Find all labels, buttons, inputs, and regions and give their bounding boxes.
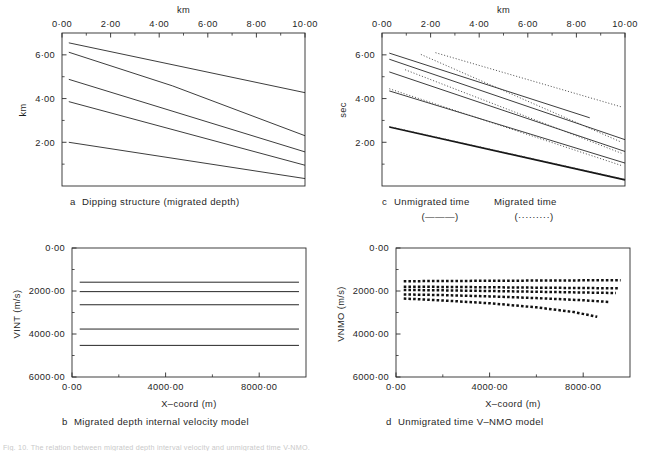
x-tick-label: 0·00 — [62, 382, 82, 392]
panel-caption-text: Migrated depth internal velocity model — [74, 416, 249, 427]
x-tick-label: 4000·00 — [471, 382, 507, 392]
y-tick-label: 6000·00 — [29, 372, 65, 382]
y-tick-label: 4000·00 — [29, 329, 65, 339]
data-series-unmigrated-5 — [389, 53, 589, 118]
data-series-horizon-2 — [69, 102, 305, 166]
y-tick-label: 2000·00 — [29, 286, 65, 296]
panel-caption-letter: c — [382, 196, 387, 207]
data-series-horizon-5 — [69, 43, 305, 93]
plot-frame — [396, 248, 630, 377]
data-series-vnmo-2 — [404, 294, 609, 302]
data-series-unmigrated-2 — [389, 91, 625, 163]
x-tick-label: 4·00 — [149, 19, 169, 29]
data-series-migrated-4 — [421, 54, 620, 141]
panel-c-plot: 0·002·004·006·008·0010·002·004·006·00kms… — [324, 0, 649, 222]
panel-b-plot: 0·004000·008000·000·002000·004000·006000… — [0, 222, 325, 437]
x-tick-label: 6·00 — [518, 19, 538, 29]
data-series-unmigrated-3 — [389, 72, 625, 152]
panel-caption-text: Unmigrated time V–NMO model — [398, 416, 543, 427]
panel-b-interval-velocity: 0·004000·008000·000·002000·004000·006000… — [0, 222, 325, 437]
panel-d-plot: 0·004000·008000·000·002000·004000·006000… — [324, 222, 649, 437]
panel-caption-letter: b — [62, 416, 68, 427]
x-tick-label: 0·00 — [386, 382, 406, 392]
y-tick-label: 6·00 — [35, 50, 55, 60]
y-tick-label: 6000·00 — [353, 372, 389, 382]
y-tick-label: 6·00 — [355, 50, 375, 60]
data-series-migrated-3 — [405, 70, 621, 153]
data-series-migrated-5 — [435, 53, 621, 107]
x-tick-label: 10·00 — [612, 19, 637, 29]
x-tick-label: 4·00 — [469, 19, 489, 29]
panel-caption-text-2: Migrated time — [494, 196, 557, 207]
x-tick-label: 10·00 — [292, 19, 317, 29]
panel-caption-letter: a — [70, 196, 76, 207]
y-tick-label: 2000·00 — [353, 286, 389, 296]
y-axis-title: VINT (m/s) — [12, 290, 22, 339]
y-tick-label: 0·00 — [45, 243, 65, 253]
data-series-vnmo-5 — [404, 280, 621, 281]
x-tick-label: 6·00 — [198, 19, 218, 29]
panel-caption-text: Unmigrated time — [394, 196, 470, 207]
data-series-vnmo-1 — [404, 299, 598, 317]
x-tick-label: 0·00 — [52, 19, 72, 29]
panel-caption-letter: d — [386, 416, 392, 427]
x-tick-label: 8·00 — [566, 19, 586, 29]
figure-footnote: Fig. 10. The relation between migrated d… — [3, 443, 643, 451]
y-tick-label: 4·00 — [355, 94, 375, 104]
y-axis-title: VNMO (m/s) — [336, 286, 346, 342]
x-tick-label: 8000·00 — [241, 382, 277, 392]
data-series-vnmo-4 — [404, 287, 619, 289]
x-tick-label: 2·00 — [421, 19, 441, 29]
y-tick-label: 2·00 — [355, 138, 375, 148]
y-axis-title: km — [18, 103, 28, 116]
y-axis-title: sec — [338, 102, 348, 118]
y-tick-label: 2·00 — [35, 138, 55, 148]
panel-c-time-sections: 0·002·004·006·008·0010·002·004·006·00kms… — [324, 0, 649, 222]
x-tick-label: 0·00 — [372, 19, 392, 29]
x-tick-label: 2·00 — [101, 19, 121, 29]
data-series-unmigrated-1 — [389, 127, 625, 180]
plot-frame — [72, 248, 306, 377]
x-axis-title: km — [177, 5, 190, 15]
plot-frame — [382, 33, 625, 186]
legend-marker-migrated: (·········) — [515, 211, 554, 222]
data-series-horizon-1 — [69, 142, 305, 178]
x-tick-label: 8000·00 — [565, 382, 601, 392]
data-series-vnmo-3 — [404, 290, 616, 293]
legend-marker-unmigrated: (———) — [422, 211, 459, 222]
data-series-horizon-3 — [69, 79, 305, 152]
data-series-horizon-4 — [69, 52, 305, 136]
panel-caption-text: Dipping structure (migrated depth) — [82, 196, 239, 207]
y-tick-label: 4·00 — [35, 94, 55, 104]
x-axis-title: km — [497, 5, 510, 15]
x-tick-label: 8·00 — [246, 19, 266, 29]
panel-d-vnmo-model: 0·004000·008000·000·002000·004000·006000… — [324, 222, 649, 437]
x-axis-title: X–coord (m) — [485, 399, 541, 409]
x-axis-title: X–coord (m) — [161, 399, 217, 409]
y-tick-label: 4000·00 — [353, 329, 389, 339]
y-tick-label: 0·00 — [369, 243, 389, 253]
panel-a-plot: 0·002·004·006·008·0010·002·004·006·00kmk… — [0, 0, 325, 222]
x-tick-label: 4000·00 — [147, 382, 183, 392]
panel-a-dipping-structure: 0·002·004·006·008·0010·002·004·006·00kmk… — [0, 0, 325, 222]
